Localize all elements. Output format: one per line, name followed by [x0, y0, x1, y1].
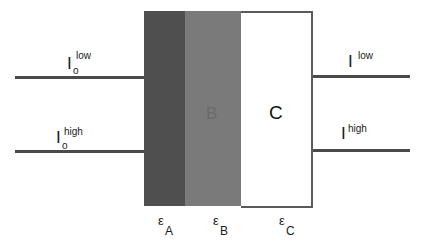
region-c-label: C: [269, 102, 283, 124]
input-high-sub: o: [62, 140, 68, 151]
input-beam-low-line: [15, 76, 144, 79]
epsilon-a-symbol: ε: [158, 213, 164, 228]
epsilon-a-sub: A: [165, 224, 173, 238]
epsilon-b-sub: B: [220, 224, 228, 238]
output-low-sup: low: [358, 50, 373, 61]
output-low-symbol: I: [348, 52, 353, 72]
output-high-sup: high: [348, 123, 367, 134]
input-low-sup: low: [76, 50, 91, 61]
epsilon-b-symbol: ε: [213, 213, 219, 228]
input-low-sub: o: [73, 65, 79, 76]
output-high-symbol: I: [341, 124, 346, 144]
region-a: [144, 11, 185, 206]
input-beam-high-line: [15, 150, 144, 153]
output-beam-low-line: [313, 75, 410, 78]
epsilon-c-sub: C: [286, 224, 295, 238]
input-high-sup: high: [64, 126, 83, 137]
epsilon-c-symbol: ε: [279, 213, 285, 228]
region-b-label: B: [206, 104, 217, 124]
input-low-symbol: I: [67, 54, 72, 74]
input-high-symbol: I: [56, 128, 61, 148]
output-beam-high-line: [313, 149, 410, 152]
